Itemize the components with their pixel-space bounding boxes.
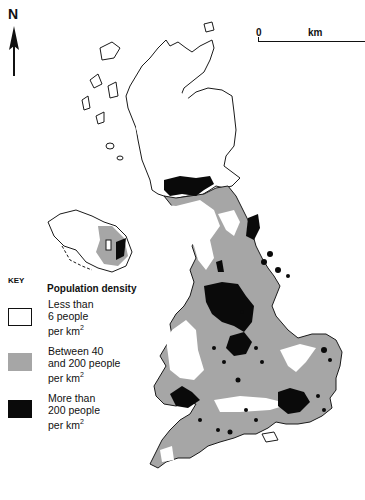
legend-label-mid: Between 40and 200 peopleper km2 [48,345,120,384]
key-label: KEY [8,276,24,285]
swatch-high-icon [8,400,32,418]
swatch-mid-icon [8,353,32,371]
legend-title: Population density [47,283,136,294]
swatch-low-icon [8,308,32,326]
legend-label-high: More than200 peopleper km2 [48,392,100,431]
isle-of-wight [262,432,278,442]
northern-ireland [48,210,132,272]
legend-label-low: Less than6 peopleper km2 [48,298,94,337]
